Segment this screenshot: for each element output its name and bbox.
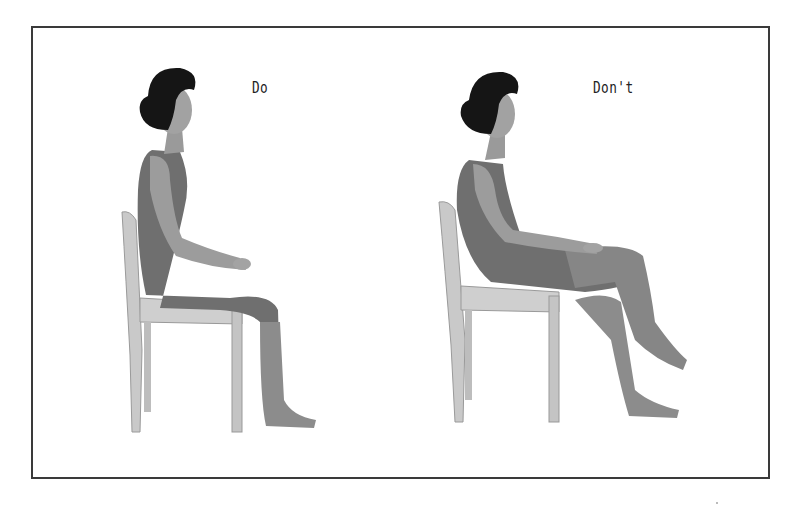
do-label: Do [252, 79, 268, 97]
do-seated-figure-illustration [110, 60, 340, 440]
stray-mark [716, 502, 718, 504]
dont-label: Don't [593, 79, 634, 97]
do-panel [110, 60, 340, 440]
dont-panel [425, 60, 705, 440]
dont-seated-figure-illustration [425, 60, 705, 440]
